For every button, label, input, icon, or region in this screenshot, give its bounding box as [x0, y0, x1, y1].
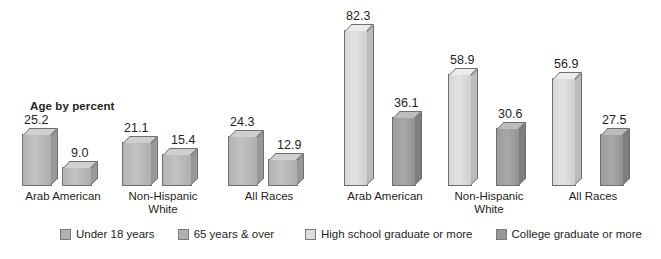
legend-swatch-icon [178, 229, 189, 240]
bar-side-face [519, 122, 526, 185]
chart-panel-education: 82.3 36.1 Arab American 58.9 [330, 0, 661, 215]
bar-under18-all-races[interactable]: 24.3 [228, 136, 258, 186]
bar-highschool-arab-american[interactable]: 82.3 [344, 30, 368, 186]
bar-front [63, 168, 91, 185]
bar-highschool-all-races[interactable]: 56.9 [552, 78, 576, 186]
bar-front [497, 129, 519, 185]
legend-item-under-18-years[interactable]: Under 18 years [60, 228, 155, 240]
bar-value-label: 25.2 [24, 114, 48, 127]
bar-value-label: 15.4 [171, 134, 195, 147]
bar-front [229, 137, 257, 185]
figure: Age by percent 25.2 9.0 Arab Amer [0, 0, 661, 259]
legend-label: Under 18 years [76, 228, 155, 240]
bar-value-label: 27.5 [602, 114, 626, 127]
bar-front [553, 79, 575, 185]
category-label-arab-american: Arab American [330, 190, 440, 203]
bar-65over-all-races[interactable]: 12.9 [268, 159, 298, 186]
bar-front [163, 155, 191, 185]
legend-item-high-school-graduate-or-more[interactable]: High school graduate or more [305, 228, 473, 240]
bar-front [601, 135, 623, 185]
bar-side-face [415, 111, 422, 185]
bar-under18-arab-american[interactable]: 25.2 [22, 134, 52, 186]
bar-value-label: 24.3 [230, 116, 254, 129]
bar-value-label: 56.9 [554, 58, 578, 71]
legend-item-college-graduate-or-more[interactable]: College graduate or more [496, 228, 642, 240]
bar-front [123, 143, 151, 185]
bar-front [393, 118, 415, 185]
bar-value-label: 12.9 [277, 139, 301, 152]
bar-college-all-races[interactable]: 27.5 [600, 134, 624, 186]
legend-age: Under 18 years 65 years & over [60, 228, 274, 240]
category-label-all-races: All Races [214, 190, 324, 203]
bar-group-all-races: 56.9 27.5 All Races [552, 0, 642, 186]
bar-value-label: 58.9 [450, 54, 474, 67]
bar-value-label: 82.3 [346, 10, 370, 23]
category-label-non-hispanic-white: Non-Hispanic White [108, 190, 218, 216]
bar-value-label: 30.6 [498, 108, 522, 121]
bar-side-face [297, 153, 304, 185]
bar-value-label: 36.1 [394, 97, 418, 110]
bar-college-arab-american[interactable]: 36.1 [392, 117, 416, 186]
bar-value-label: 9.0 [71, 147, 88, 160]
bar-side-face [575, 72, 582, 185]
bar-front [269, 160, 297, 185]
category-label-non-hispanic-white: Non-Hispanic White [434, 190, 544, 216]
legend-label: College graduate or more [512, 228, 642, 240]
bar-side-face [51, 128, 58, 185]
legend-label: 65 years & over [194, 228, 275, 240]
bar-side-face [191, 148, 198, 185]
bar-front [23, 135, 51, 185]
bar-under18-non-hispanic-white[interactable]: 21.1 [122, 142, 152, 186]
legend-item-65-years-and-over[interactable]: 65 years & over [178, 228, 275, 240]
legend-swatch-icon [496, 229, 507, 240]
bar-value-label: 21.1 [124, 122, 148, 135]
bar-group-non-hispanic-white: 58.9 30.6 Non-Hispanic White [448, 0, 538, 186]
bar-group-arab-american: 82.3 36.1 Arab American [344, 0, 434, 186]
bar-group-all-races: 24.3 12.9 All Races [228, 0, 313, 186]
bar-college-non-hispanic-white[interactable]: 30.6 [496, 128, 520, 186]
bar-65over-non-hispanic-white[interactable]: 15.4 [162, 154, 192, 186]
bar-side-face [151, 136, 158, 185]
bar-highschool-non-hispanic-white[interactable]: 58.9 [448, 74, 472, 186]
bar-side-face [623, 128, 630, 185]
bar-side-face [257, 130, 264, 185]
legend-swatch-icon [305, 229, 316, 240]
bar-group-non-hispanic-white: 21.1 15.4 Non-Hispanic White [122, 0, 207, 186]
bar-side-face [471, 68, 478, 185]
bar-side-face [367, 24, 374, 185]
category-label-arab-american: Arab American [8, 190, 118, 203]
chart-panel-age: Age by percent 25.2 9.0 Arab Amer [0, 0, 330, 215]
bar-front [449, 75, 471, 185]
bar-group-arab-american: 25.2 9.0 Arab American [22, 0, 107, 186]
legend-swatch-icon [60, 229, 71, 240]
category-label-all-races: All Races [538, 190, 648, 203]
bar-65over-arab-american[interactable]: 9.0 [62, 167, 92, 186]
legend-label: High school graduate or more [321, 228, 473, 240]
bar-front [345, 31, 367, 185]
legend-education: High school graduate or more College gra… [305, 228, 642, 240]
